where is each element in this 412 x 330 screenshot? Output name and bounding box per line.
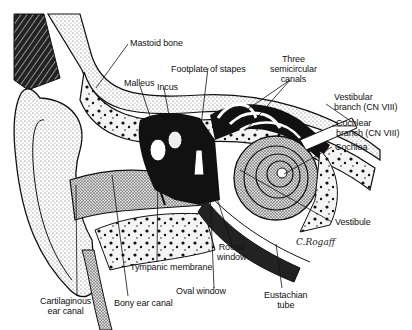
label-cartilaginous-ear-canal: Cartilaginous ear canal [40, 296, 91, 316]
label-cochlea: Cochlea [335, 142, 367, 152]
label-three-semicircular-canals: Three semicircular canals [270, 54, 317, 84]
label-incus: Incus [157, 82, 178, 92]
label-oval-window: Oval window [176, 286, 226, 296]
label-tympanic-membrane: Tympanic membrane [130, 262, 212, 272]
ear-anatomy-diagram: Mastoid bone Malleus Incus Footplate of … [0, 0, 412, 330]
label-mastoid-bone: Mastoid bone [130, 38, 183, 48]
label-cochlear-branch: Cochlear branch (CN VIII) [336, 118, 399, 138]
label-vestibule: Vestibule [335, 217, 371, 227]
label-round-window: Round window [217, 242, 246, 262]
label-bony-ear-canal: Bony ear canal [114, 298, 173, 308]
label-vestibular-branch: Vestibular branch (CN VIII) [334, 92, 397, 112]
label-footplate-of-stapes: Footplate of stapes [171, 64, 246, 74]
label-eustachian-tube: Eustachian tube [264, 290, 308, 310]
label-malleus: Malleus [124, 78, 154, 88]
artist-signature: C.Rogaff [296, 237, 335, 247]
ear-illustration [0, 0, 412, 330]
